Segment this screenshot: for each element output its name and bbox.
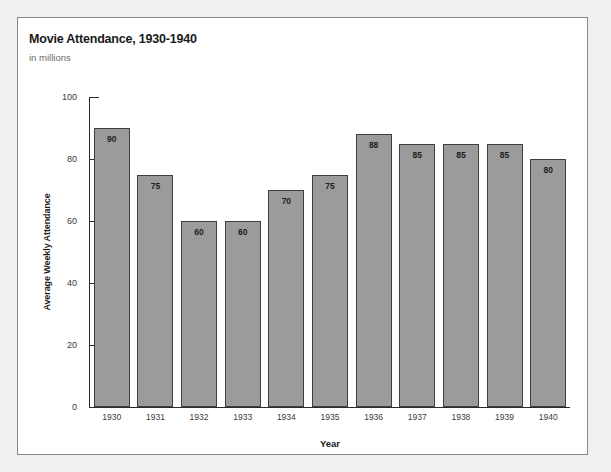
x-tick-label: 1931 (133, 412, 177, 422)
x-axis-title: Year (90, 438, 570, 449)
y-tick-label: 60 (67, 216, 77, 226)
bar: 85 (443, 144, 479, 408)
x-tick-label: 1940 (526, 412, 570, 422)
y-tick-label: 0 (72, 402, 77, 412)
bar: 70 (268, 190, 304, 407)
y-tick-label: 80 (67, 154, 77, 164)
bar-value-label: 75 (313, 181, 347, 191)
chart-subtitle: in millions (29, 52, 71, 63)
bar: 88 (356, 134, 392, 407)
x-tick-label: 1933 (221, 412, 265, 422)
x-tick-label: 1930 (90, 412, 134, 422)
x-tick-label: 1939 (483, 412, 527, 422)
y-tick-mark (90, 407, 99, 408)
y-tick-label: 20 (67, 340, 77, 350)
bar: 85 (487, 144, 523, 408)
page-title: Movie Attendance, 1930-1940 (29, 32, 197, 46)
bar-value-label: 85 (444, 150, 478, 160)
y-axis-title: Average Weekly Attendance (40, 97, 54, 407)
bar: 75 (312, 175, 348, 408)
bar: 90 (94, 128, 130, 407)
bar: 60 (225, 221, 261, 407)
page-background: Movie Attendance, 1930-1940 in millions … (0, 0, 611, 472)
bar-series: 9075606070758885858580 (90, 97, 570, 407)
x-tick-label: 1935 (308, 412, 352, 422)
bar-value-label: 60 (182, 227, 216, 237)
y-tick-label: 100 (62, 92, 77, 102)
x-tick-label: 1938 (439, 412, 483, 422)
chart-panel: Movie Attendance, 1930-1940 in millions … (17, 17, 588, 455)
x-axis-line (89, 407, 570, 408)
x-tick-label: 1934 (264, 412, 308, 422)
bar: 80 (530, 159, 566, 407)
bar-value-label: 75 (138, 181, 172, 191)
x-tick-label: 1936 (352, 412, 396, 422)
bar-value-label: 80 (531, 165, 565, 175)
bar-value-label: 70 (269, 196, 303, 206)
x-tick-label: 1937 (395, 412, 439, 422)
bar-value-label: 90 (95, 134, 129, 144)
bar-value-label: 85 (488, 150, 522, 160)
y-tick-label: 40 (67, 278, 77, 288)
bar: 75 (137, 175, 173, 408)
x-tick-label: 1932 (177, 412, 221, 422)
bar: 85 (399, 144, 435, 408)
plot-area: 020406080100 9075606070758885858580 1930… (90, 97, 570, 407)
bar-value-label: 88 (357, 140, 391, 150)
bar: 60 (181, 221, 217, 407)
bar-value-label: 60 (226, 227, 260, 237)
bar-value-label: 85 (400, 150, 434, 160)
